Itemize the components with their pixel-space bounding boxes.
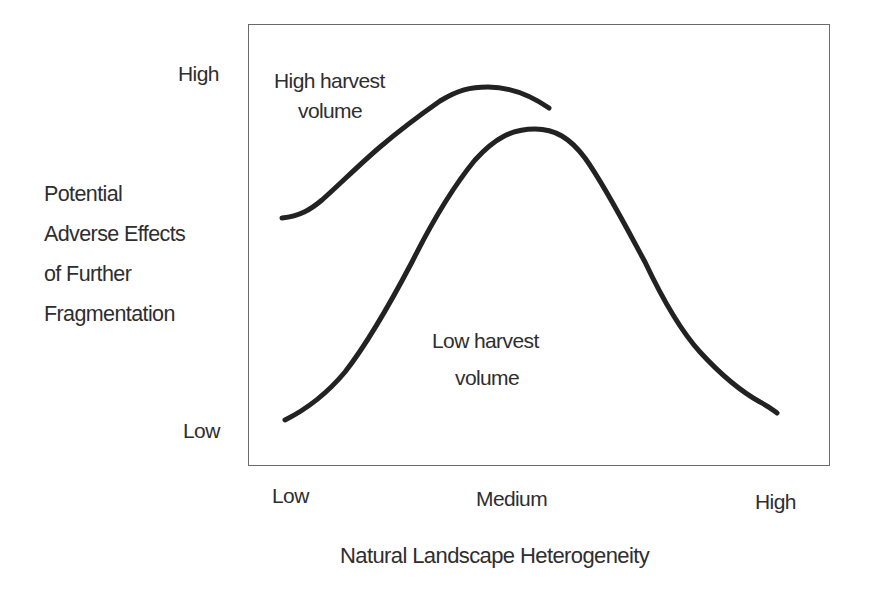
y-axis-title-line-2: Adverse Effects <box>44 214 185 254</box>
x-tick-medium: Medium <box>476 487 547 511</box>
x-tick-high: High <box>755 490 796 514</box>
annotation-low-harvest-line-2: volume <box>455 366 519 390</box>
curve-low-harvest-volume <box>285 129 777 420</box>
annotation-high-harvest-line-1: High harvest <box>274 69 385 93</box>
x-axis-title: Natural Landscape Heterogeneity <box>340 543 649 569</box>
y-axis-title-line-1: Potential <box>44 174 185 214</box>
x-tick-low: Low <box>272 484 309 508</box>
y-tick-low: Low <box>183 419 220 443</box>
annotation-low-harvest-line-1: Low harvest <box>432 329 539 353</box>
y-axis-title-line-4: Fragmentation <box>44 294 185 334</box>
y-tick-high: High <box>178 62 219 86</box>
annotation-high-harvest-line-2: volume <box>298 99 362 123</box>
y-axis-title-line-3: of Further <box>44 254 185 294</box>
y-axis-title: Potential Adverse Effects of Further Fra… <box>44 174 185 334</box>
